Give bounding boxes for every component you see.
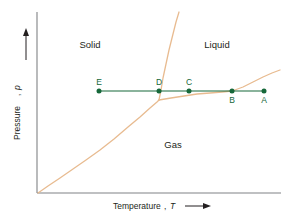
marker-d[interactable]: D bbox=[156, 77, 162, 94]
marker-label-c: C bbox=[186, 77, 192, 87]
marker-label-e: E bbox=[96, 77, 102, 87]
marker-label-d: D bbox=[156, 77, 162, 87]
region-label-liquid: Liquid bbox=[204, 39, 229, 50]
marker-dot-c[interactable] bbox=[187, 89, 192, 94]
y-axis-title-symbol: p bbox=[12, 85, 22, 91]
marker-dot-a[interactable] bbox=[262, 89, 267, 94]
marker-a[interactable]: A bbox=[261, 89, 267, 106]
marker-dot-e[interactable] bbox=[97, 89, 102, 94]
marker-dot-b[interactable] bbox=[230, 89, 235, 94]
marker-label-a: A bbox=[261, 95, 267, 105]
marker-e[interactable]: E bbox=[96, 77, 102, 94]
x-axis-title-symbol: T bbox=[170, 201, 176, 211]
marker-label-b: B bbox=[229, 95, 235, 105]
marker-c[interactable]: C bbox=[186, 77, 192, 94]
region-label-solid: Solid bbox=[79, 39, 100, 50]
marker-b[interactable]: B bbox=[229, 89, 235, 106]
region-label-gas: Gas bbox=[164, 139, 182, 150]
diagram-background bbox=[0, 0, 284, 220]
marker-dot-d[interactable] bbox=[157, 89, 162, 94]
x-axis-title-comma: , bbox=[164, 201, 166, 211]
x-axis-title-text: Temperature bbox=[113, 201, 161, 211]
y-axis-title-text: Pressure bbox=[12, 106, 22, 140]
phase-diagram: Pressure , p Temperature , T Solid Liqui… bbox=[0, 0, 284, 220]
y-axis-title-comma: , bbox=[12, 94, 22, 96]
